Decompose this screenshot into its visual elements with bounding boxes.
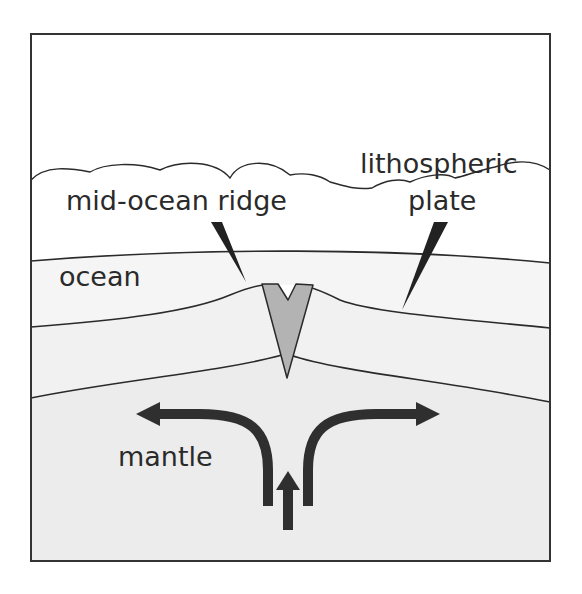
diagram-canvas: [0, 0, 582, 594]
label-ocean: ocean: [59, 263, 141, 290]
label-mid-ocean-ridge: mid-ocean ridge: [66, 187, 287, 214]
mid-ocean-ridge-diagram: lithospheric plate mid-ocean ridge ocean…: [0, 0, 582, 594]
label-lithospheric: lithospheric: [360, 150, 518, 177]
label-plate: plate: [408, 187, 476, 214]
label-mantle: mantle: [118, 443, 213, 470]
